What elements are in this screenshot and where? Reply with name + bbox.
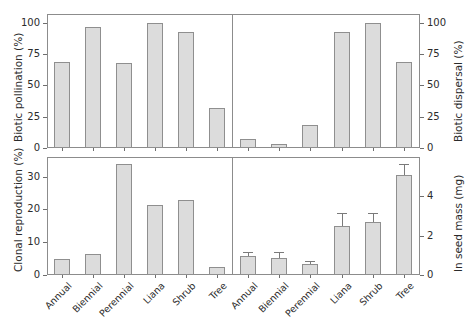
y-tick-label-biotic-dispersal-2: 50	[427, 80, 440, 90]
y-tick-label-biotic-pollination-4: 100	[0, 18, 40, 28]
y-tick-mark-biotic-pollination-4	[43, 23, 47, 24]
y-tick-mark-biotic-dispersal-2	[420, 85, 424, 86]
y-tick-mark-clonal-reproduction-2	[43, 209, 47, 210]
x-tick-ln-seed-mass-shrub	[373, 275, 374, 278]
x-tick-ln-seed-mass-annual	[248, 275, 249, 278]
x-tick-clonal-reproduction-annual	[62, 275, 63, 278]
y-tick-mark-biotic-dispersal-4	[420, 23, 424, 24]
y-tick-mark-biotic-dispersal-1	[420, 117, 424, 118]
y-tick-mark-biotic-pollination-0	[43, 148, 47, 149]
y-tick-mark-clonal-reproduction-3	[43, 177, 47, 178]
x-tick-biotic-pollination-annual	[62, 148, 63, 151]
y-tick-mark-biotic-dispersal-0	[420, 148, 424, 149]
x-tick-biotic-dispersal-annual	[248, 148, 249, 151]
x-tick-biotic-dispersal-shrub	[373, 148, 374, 151]
y-tick-mark-clonal-reproduction-0	[43, 275, 47, 276]
y-tick-label-clonal-reproduction-2: 20	[0, 204, 40, 214]
figure-panel-grid: Biotic pollination (%) Biotic dispersal …	[0, 0, 467, 328]
y-tick-mark-ln-seed-mass-1	[420, 236, 424, 237]
y-tick-label-biotic-dispersal-4: 100	[427, 18, 446, 28]
y-tick-mark-ln-seed-mass-2	[420, 196, 424, 197]
x-tick-clonal-reproduction-shrub	[186, 275, 187, 278]
x-tick-biotic-pollination-perennial	[124, 148, 125, 151]
x-tick-clonal-reproduction-perennial	[124, 275, 125, 278]
y-tick-label-biotic-dispersal-3: 75	[427, 49, 440, 59]
x-tick-biotic-dispersal-perennial	[310, 148, 311, 151]
y-tick-label-clonal-reproduction-1: 10	[0, 237, 40, 247]
x-tick-ln-seed-mass-liana	[342, 275, 343, 278]
y-tick-label-biotic-pollination-1: 25	[0, 112, 40, 122]
y-tick-label-ln-seed-mass-1: 2	[427, 231, 433, 241]
y-tick-mark-biotic-dispersal-3	[420, 54, 424, 55]
x-tick-biotic-pollination-tree	[217, 148, 218, 151]
x-tick-clonal-reproduction-tree	[217, 275, 218, 278]
axis-decorations: 025507510002550751000102030AnnualBiennia…	[0, 0, 467, 328]
y-tick-label-ln-seed-mass-0: 0	[427, 270, 433, 280]
y-tick-label-biotic-pollination-2: 50	[0, 80, 40, 90]
y-tick-mark-biotic-pollination-2	[43, 85, 47, 86]
y-tick-label-biotic-pollination-0: 0	[0, 143, 40, 153]
y-tick-label-clonal-reproduction-0: 0	[0, 270, 40, 280]
y-tick-mark-ln-seed-mass-0	[420, 275, 424, 276]
x-tick-biotic-pollination-liana	[155, 148, 156, 151]
y-tick-label-clonal-reproduction-3: 30	[0, 172, 40, 182]
x-tick-biotic-dispersal-biennial	[279, 148, 280, 151]
x-tick-ln-seed-mass-tree	[404, 275, 405, 278]
x-tick-biotic-dispersal-liana	[342, 148, 343, 151]
x-tick-biotic-pollination-biennial	[93, 148, 94, 151]
x-tick-biotic-pollination-shrub	[186, 148, 187, 151]
y-tick-mark-biotic-pollination-3	[43, 54, 47, 55]
y-tick-label-biotic-dispersal-0: 0	[427, 143, 433, 153]
y-tick-label-biotic-pollination-3: 75	[0, 49, 40, 59]
y-tick-label-ln-seed-mass-2: 4	[427, 191, 433, 201]
x-tick-clonal-reproduction-liana	[155, 275, 156, 278]
y-tick-label-biotic-dispersal-1: 25	[427, 112, 440, 122]
x-tick-ln-seed-mass-perennial	[310, 275, 311, 278]
y-tick-mark-clonal-reproduction-1	[43, 242, 47, 243]
x-tick-clonal-reproduction-biennial	[93, 275, 94, 278]
y-tick-mark-biotic-pollination-1	[43, 117, 47, 118]
x-tick-ln-seed-mass-biennial	[279, 275, 280, 278]
x-tick-biotic-dispersal-tree	[404, 148, 405, 151]
